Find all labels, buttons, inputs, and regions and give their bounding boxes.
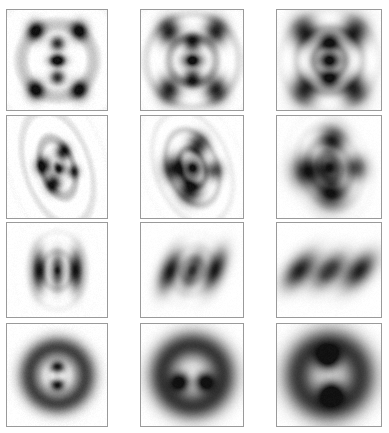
panel-r4c2 xyxy=(140,323,244,427)
panel-r3c3-canvas xyxy=(277,223,381,317)
panel-r3c1-image xyxy=(7,223,107,317)
panel-r2c3-canvas xyxy=(277,116,381,218)
panel-r3c2 xyxy=(140,222,244,318)
panel-r3c2-image xyxy=(141,223,243,317)
image-grid-figure xyxy=(0,0,389,433)
panel-r1c2 xyxy=(140,9,244,111)
panel-r4c1-image xyxy=(7,324,107,426)
panel-r3c3 xyxy=(276,222,382,318)
panel-r4c3-canvas xyxy=(277,324,381,426)
panel-r3c2-canvas xyxy=(141,223,243,317)
panel-r2c2-canvas xyxy=(141,116,243,218)
panel-r2c1-canvas xyxy=(7,116,107,218)
panel-r2c1-image xyxy=(7,116,107,218)
panel-r1c3-canvas xyxy=(277,10,381,110)
panel-r1c3 xyxy=(276,9,382,111)
panel-r2c2 xyxy=(140,115,244,219)
panel-r2c1 xyxy=(6,115,108,219)
panel-r3c1-canvas xyxy=(7,223,107,317)
panel-r4c2-image xyxy=(141,324,243,426)
panel-r2c3 xyxy=(276,115,382,219)
panel-r1c1-canvas xyxy=(7,10,107,110)
panel-r3c3-image xyxy=(277,223,381,317)
panel-r4c1-canvas xyxy=(7,324,107,426)
panel-r1c3-image xyxy=(277,10,381,110)
panel-r1c2-canvas xyxy=(141,10,243,110)
panel-r1c2-image xyxy=(141,10,243,110)
panel-r1c1-image xyxy=(7,10,107,110)
panel-r2c3-image xyxy=(277,116,381,218)
panel-r1c1 xyxy=(6,9,108,111)
panel-r4c3-image xyxy=(277,324,381,426)
panel-r4c2-canvas xyxy=(141,324,243,426)
panel-r4c3 xyxy=(276,323,382,427)
panel-r3c1 xyxy=(6,222,108,318)
panel-r4c1 xyxy=(6,323,108,427)
panel-r2c2-image xyxy=(141,116,243,218)
